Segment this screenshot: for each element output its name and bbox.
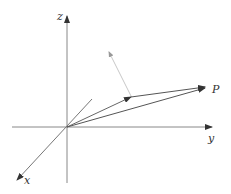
y-axis-label: y: [207, 132, 215, 145]
point-p-label: P: [211, 83, 220, 96]
x-axis-label: x: [24, 174, 31, 187]
z-axis-label: z: [56, 10, 63, 23]
x-axis: [17, 99, 92, 180]
vector-origin-to-p: [67, 88, 205, 127]
coordinate-diagram: z y x P: [0, 0, 231, 194]
light-vector: [109, 52, 131, 96]
vector-mid-to-p: [131, 87, 205, 97]
